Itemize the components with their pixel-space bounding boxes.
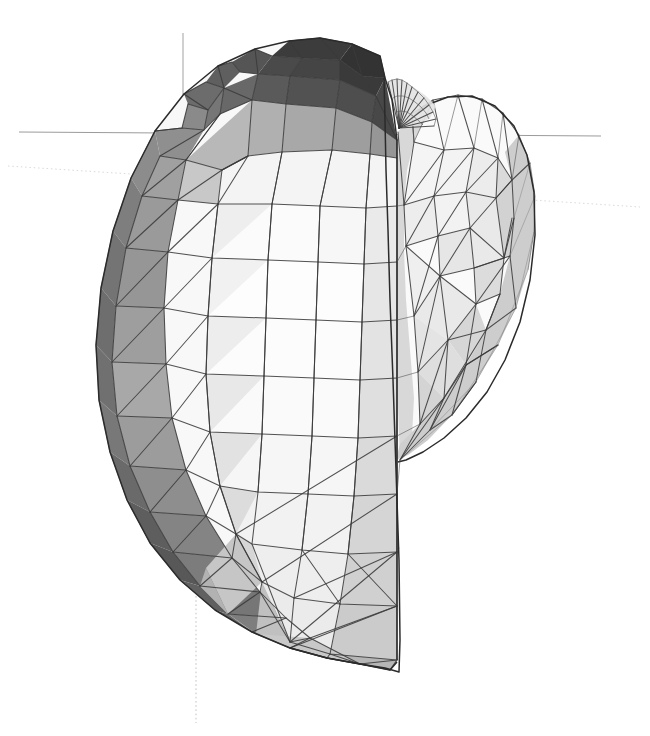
right-lobe-group[interactable] <box>394 95 535 462</box>
mesh-scene <box>0 0 650 736</box>
model-viewport[interactable]: 3D polygonal mesh model viewport Shaded-… <box>0 0 650 736</box>
